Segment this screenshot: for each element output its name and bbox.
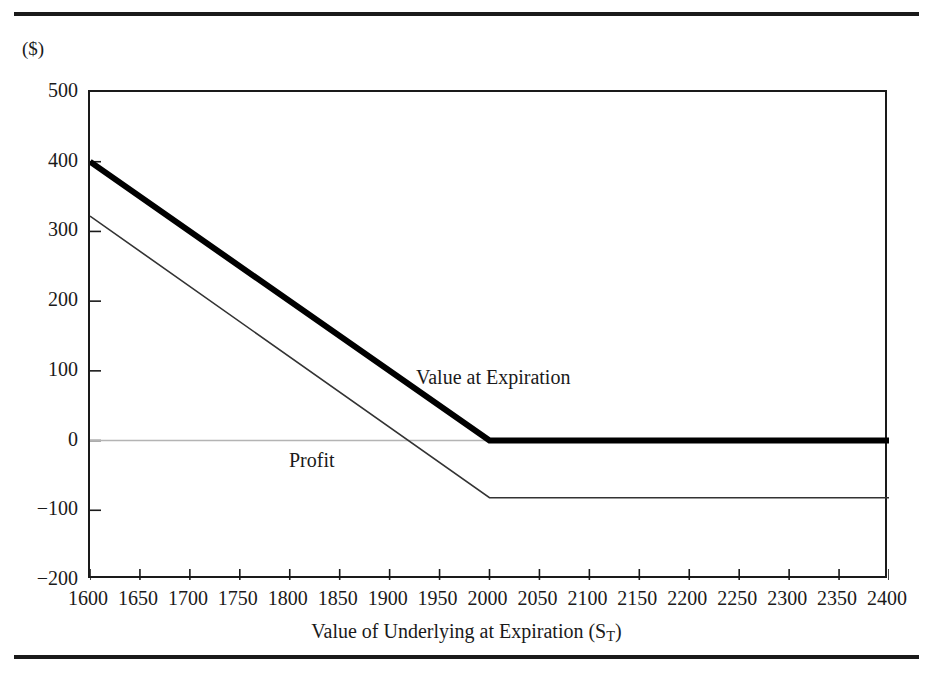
x-tick-label-2400: 2400 [857, 586, 917, 610]
data-series-group [90, 162, 889, 498]
y-tick-label-500: 500 [8, 80, 78, 100]
series-line-profit [90, 216, 889, 498]
y-axis-ticks [90, 162, 101, 511]
x-axis-ticks [90, 569, 889, 580]
chart-svg [90, 92, 889, 580]
y-tick-label-0: 0 [8, 429, 78, 449]
y-tick-label-100: 100 [8, 359, 78, 379]
y-tick-label--200: −200 [8, 568, 78, 588]
top-rule [14, 12, 919, 16]
y-tick-label--100: −100 [8, 498, 78, 518]
y-axis-tick-labels: 5004003002001000−100−200 [0, 90, 78, 578]
x-axis-title-main: Value of Underlying at Expiration (S [311, 620, 606, 642]
x-axis-title-subscript: T [606, 628, 615, 644]
series-label-profit: Profit [289, 449, 335, 472]
y-axis-unit-label: ($) [22, 38, 44, 60]
x-axis-tick-labels: 1600165017001750180018501900195020002050… [88, 586, 887, 614]
y-tick-label-400: 400 [8, 150, 78, 170]
y-tick-label-200: 200 [8, 289, 78, 309]
bottom-rule [14, 655, 919, 659]
plot-area: Value at Expiration Profit [88, 90, 887, 578]
figure-container: Exhibit Short Call ($) 5004003002001000−… [0, 0, 933, 678]
figure-title: Exhibit Short Call [30, 0, 233, 2]
x-axis-title: Value of Underlying at Expiration (ST) [0, 620, 933, 645]
series-label-value-at-expiration: Value at Expiration [416, 366, 570, 389]
x-axis-title-tail: ) [615, 620, 622, 642]
y-tick-label-300: 300 [8, 219, 78, 239]
